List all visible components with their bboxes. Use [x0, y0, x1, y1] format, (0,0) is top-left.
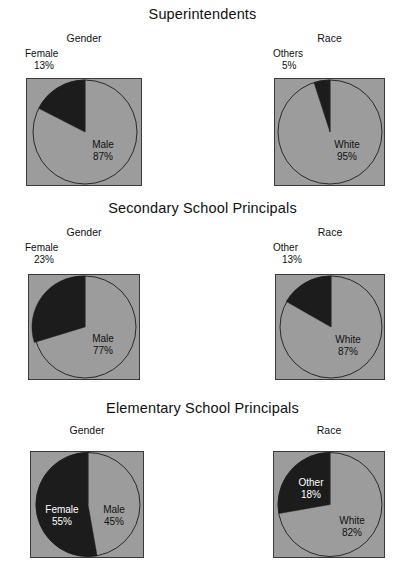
slice-label-other: Other 18%: [285, 477, 337, 501]
section-superintendents: Superintendents Gender Female 13% Male: [0, 0, 405, 190]
slice-pct: 95%: [317, 151, 377, 163]
plot-box: White 87%: [275, 274, 385, 380]
pie-chart-race: [277, 275, 385, 379]
callout-other: Other 13%: [273, 242, 302, 266]
callout-pct: 13%: [273, 254, 302, 266]
panel-elementary-race: Race Other 18% White 82%: [0, 396, 405, 568]
panel-subtitle: Race: [273, 424, 385, 436]
slice-pct: 87%: [318, 346, 378, 358]
pie-svg: [276, 79, 384, 185]
panel-superintendents-race: Race Others 5% White 95%: [0, 0, 405, 190]
slice-label-white: White 95%: [317, 139, 377, 163]
callout-name: Other: [273, 242, 298, 253]
panel-subtitle: Race: [275, 226, 385, 238]
callout-others: Others 5%: [273, 48, 303, 72]
section-elementary-school-principals: Elementary School Principals Gender Fema…: [0, 396, 405, 568]
slice-name: White: [326, 515, 378, 527]
callout-name: Others: [273, 48, 303, 59]
section-secondary-school-principals: Secondary School Principals Gender Femal…: [0, 196, 405, 386]
plot-box: Other 18% White 82%: [273, 451, 385, 558]
plot-box: White 95%: [274, 78, 385, 186]
figure-canvas: Superintendents Gender Female 13% Male: [0, 0, 405, 568]
slice-name: White: [317, 139, 377, 151]
pie-chart-race: [276, 79, 384, 185]
panel-subtitle: Race: [274, 32, 385, 44]
callout-pct: 5%: [273, 60, 303, 72]
pie-svg: [277, 275, 385, 379]
panel-secondary-race: Race Other 13% White 87%: [0, 196, 405, 386]
slice-name: White: [318, 334, 378, 346]
slice-pct: 82%: [326, 527, 378, 539]
pie-chart-race: [275, 452, 385, 557]
slice-label-white: White 82%: [326, 515, 378, 539]
slice-pct: 18%: [285, 489, 337, 501]
pie-svg: [275, 452, 385, 557]
slice-name: Other: [285, 477, 337, 489]
slice-label-white: White 87%: [318, 334, 378, 358]
